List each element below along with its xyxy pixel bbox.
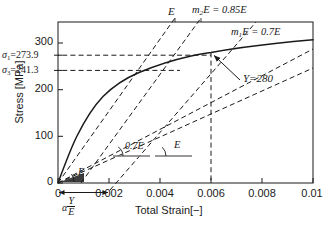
annotation-slope-m1E: m1E = 0.7E	[231, 27, 280, 39]
annotation-angle-07E: 0.7E	[125, 141, 144, 151]
x-axis-title: Total Strain[−]	[135, 205, 203, 216]
m2-rest: E = 0.85E	[203, 4, 247, 15]
ytick-label-200: 200	[31, 83, 53, 94]
annotation-alpha-y-over-e: αYE	[62, 196, 75, 217]
m2-base: m	[192, 4, 200, 15]
tangent-line-E	[58, 18, 175, 183]
annotation-angle-E-inner: E	[174, 140, 180, 151]
ytick-label-0: 0	[31, 176, 53, 187]
figure-canvas: E m2E = 0.85E m1E = 0.7E Y=280 0.7E E E …	[0, 0, 330, 232]
xtick-label-0: 0	[51, 188, 65, 199]
annotation-angle-E-origin: E	[78, 167, 84, 178]
m1-rest: E = 0.7E	[242, 26, 280, 37]
ytick-label-300: 300	[31, 36, 53, 47]
y-axis-ticks	[58, 43, 63, 183]
secant-line-sigma3	[58, 68, 313, 183]
m1-base: m	[231, 26, 239, 37]
xtick-label-0.008: 0.008	[246, 188, 278, 199]
annotation-slope-m2E: m2E = 0.85E	[192, 5, 247, 17]
yield-callout-arrow	[214, 56, 240, 81]
annotation-leaders	[175, 18, 201, 22]
y-axis-title: Stress [MPa]	[13, 51, 25, 133]
y-over-e-fraction: YE	[67, 196, 75, 217]
ytick-label-100: 100	[31, 130, 53, 141]
xtick-label-0.006: 0.006	[195, 188, 227, 199]
annotation-slope-E-top: E	[168, 6, 175, 17]
xtick-label-0.01: 0.01	[299, 188, 325, 199]
fraction-denominator: E	[67, 207, 75, 217]
annotation-yield-callout: Y=280	[243, 73, 273, 84]
x-axis-ticks	[58, 178, 313, 183]
xtick-label-0.002: 0.002	[93, 188, 125, 199]
xtick-label-0.004: 0.004	[144, 188, 176, 199]
tangent-line-m1E	[110, 22, 256, 190]
secant-line-sigma1	[58, 49, 313, 183]
